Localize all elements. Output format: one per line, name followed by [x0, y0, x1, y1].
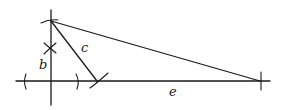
label-c: c [81, 40, 89, 55]
segment-c-line [51, 21, 97, 81]
label-b: b [39, 57, 47, 72]
diagram-svg: b c e [0, 0, 284, 110]
label-e: e [169, 84, 177, 99]
construction-diagram: b c e [0, 0, 284, 110]
